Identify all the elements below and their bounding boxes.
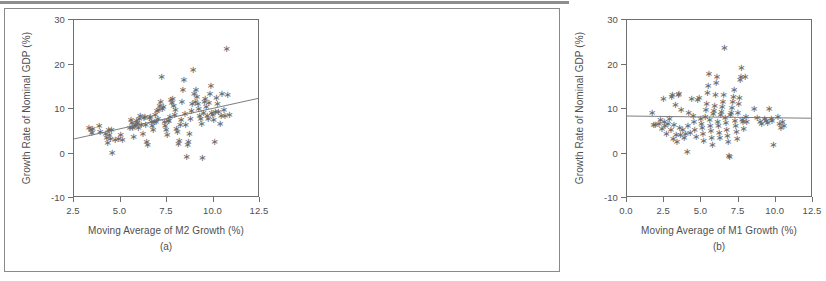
- y-tickmark: [68, 108, 73, 109]
- y-tick-label: 20: [33, 58, 65, 69]
- y-tick-label: -10: [33, 192, 65, 203]
- y-tick-label: 30: [586, 14, 618, 25]
- data-point-marker: ∗: [659, 93, 667, 104]
- y-tickmark: [621, 19, 626, 20]
- data-point-marker: ∗: [178, 96, 186, 107]
- data-point-marker: ∗: [724, 136, 732, 147]
- data-point-marker: ∗: [143, 139, 151, 150]
- x-tick-label: 12.5: [803, 205, 822, 216]
- y-tickmark: [68, 153, 73, 154]
- data-point-marker: ∗: [719, 89, 727, 100]
- panel-label-a: (a): [33, 241, 299, 252]
- data-point-marker: ∗: [108, 147, 116, 158]
- data-point-marker: ∗: [735, 92, 743, 103]
- data-point-marker: ∗: [206, 80, 214, 91]
- y-tickmark: [621, 64, 626, 65]
- x-tickmark: [259, 197, 260, 202]
- data-point-marker: ∗: [699, 135, 707, 146]
- data-point-marker: ∗: [223, 89, 231, 100]
- x-tick-label: 2.5: [66, 205, 80, 216]
- data-point-marker: ∗: [157, 71, 165, 82]
- x-tick-label: 0.0: [619, 205, 633, 216]
- chart-panel-b: ∗∗∗∗∗∗∗∗∗∗∗∗∗∗∗∗∗∗∗∗∗∗∗∗∗∗∗∗∗∗∗∗∗∗∗∗∗∗∗∗…: [285, 0, 569, 281]
- data-point-marker: ∗: [741, 71, 749, 82]
- data-point-marker: ∗: [175, 135, 183, 146]
- data-point-marker: ∗: [720, 42, 728, 53]
- x-tick-label: 10.0: [203, 205, 222, 216]
- y-tick-label: 10: [586, 103, 618, 114]
- y-tickmark: [68, 64, 73, 65]
- x-tick-label: 5.0: [694, 205, 708, 216]
- data-point-marker: ∗: [648, 107, 656, 118]
- x-tick-label: 7.5: [731, 205, 745, 216]
- y-tickmark: [68, 19, 73, 20]
- x-axis-title-b: Moving Average of M1 Growth (%): [586, 225, 826, 236]
- data-point-marker: ∗: [182, 151, 190, 162]
- data-point-marker: ∗: [780, 120, 788, 131]
- y-axis-title-b: Growth Rate of Nominal GDP (%): [574, 32, 585, 184]
- x-tick-label: 7.5: [159, 205, 173, 216]
- scatter-plot-b: ∗∗∗∗∗∗∗∗∗∗∗∗∗∗∗∗∗∗∗∗∗∗∗∗∗∗∗∗∗∗∗∗∗∗∗∗∗∗∗∗…: [285, 0, 826, 281]
- x-tickmark: [812, 197, 813, 202]
- data-point-marker: ∗: [713, 71, 721, 82]
- data-point-marker: ∗: [198, 152, 206, 163]
- y-tick-label: 10: [33, 103, 65, 114]
- data-point-marker: ∗: [189, 64, 197, 75]
- x-tickmark: [120, 197, 121, 202]
- x-tick-label: 2.5: [656, 205, 670, 216]
- x-tickmark: [73, 197, 74, 202]
- x-tickmark: [626, 197, 627, 202]
- y-tick-label: -10: [586, 192, 618, 203]
- data-point-marker: ∗: [179, 84, 187, 95]
- x-tick-label: 5.0: [113, 205, 127, 216]
- data-point-marker: ∗: [179, 74, 187, 85]
- y-axis-title-a: Growth Rate of Nominal GDP (%): [21, 32, 32, 184]
- x-tick-label: 12.5: [250, 205, 269, 216]
- x-tickmark: [738, 197, 739, 202]
- data-point-marker: ∗: [222, 43, 230, 54]
- data-point-marker: ∗: [225, 109, 233, 120]
- data-point-marker: ∗: [683, 146, 691, 157]
- data-point-marker: ∗: [742, 116, 750, 127]
- data-point-marker: ∗: [185, 128, 193, 139]
- x-tickmark: [213, 197, 214, 202]
- y-tick-label: 0: [33, 147, 65, 158]
- data-point-marker: ∗: [769, 139, 777, 150]
- y-tickmark: [621, 153, 626, 154]
- x-axis-title-a: Moving Average of M2 Growth (%): [33, 225, 299, 236]
- x-tick-label: 10.0: [765, 205, 784, 216]
- chart-panel-a: ∗∗∗∗∗∗∗∗∗∗∗∗∗∗∗∗∗∗∗∗∗∗∗∗∗∗∗∗∗∗∗∗∗∗∗∗∗∗∗∗…: [0, 0, 285, 281]
- y-tick-label: 0: [586, 147, 618, 158]
- x-tickmark: [166, 197, 167, 202]
- x-tickmark: [775, 197, 776, 202]
- data-point-marker: ∗: [725, 151, 733, 162]
- x-tickmark: [700, 197, 701, 202]
- data-point-marker: ∗: [765, 103, 773, 114]
- x-tickmark: [663, 197, 664, 202]
- data-point-marker: ∗: [210, 136, 218, 147]
- panel-label-b: (b): [586, 241, 826, 252]
- data-point-marker: ∗: [733, 133, 741, 144]
- data-point-marker: ∗: [118, 134, 126, 145]
- y-tick-label: 30: [33, 14, 65, 25]
- y-tickmark: [621, 108, 626, 109]
- y-tick-label: 20: [586, 58, 618, 69]
- data-point-marker: ∗: [675, 88, 683, 99]
- data-point-marker: ∗: [163, 129, 171, 140]
